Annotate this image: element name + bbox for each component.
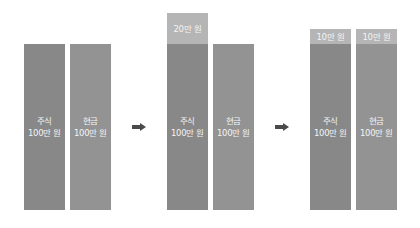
cash-label: 현금: [83, 115, 98, 127]
stock-bar-gain: 20만 원 주식 100만 원: [167, 13, 208, 210]
cash-segment: 현금 100만 원: [356, 44, 397, 210]
stock-label: 주식: [323, 115, 338, 127]
cash-label: 현금: [369, 115, 384, 127]
stock-amount: 100만 원: [171, 127, 204, 139]
cash-bar-rebalanced: 10만 원 현금 100만 원: [356, 29, 397, 210]
cash-amount: 100만 원: [217, 127, 250, 139]
gain-segment: 20만 원: [167, 13, 208, 44]
stock-bar-initial: 주식 100만 원: [24, 44, 65, 210]
rebalanced-segment: 10만 원: [356, 29, 397, 44]
cash-segment: 현금 100만 원: [70, 44, 111, 210]
stock-amount: 100만 원: [28, 127, 61, 139]
stock-segment: 주식 100만 원: [310, 44, 351, 210]
cash-bar-gain: 현금 100만 원: [213, 44, 254, 210]
rebalanced-segment: 10만 원: [310, 29, 351, 44]
stock-label: 주식: [180, 115, 195, 127]
right-arrow-icon: [132, 123, 146, 131]
stock-label: 주식: [37, 115, 52, 127]
stock-segment: 주식 100만 원: [24, 44, 65, 210]
cash-amount: 100만 원: [360, 127, 393, 139]
cash-label: 현금: [226, 115, 241, 127]
cash-segment: 현금 100만 원: [213, 44, 254, 210]
cash-amount: 100만 원: [74, 127, 107, 139]
right-arrow-icon: [275, 123, 289, 131]
stock-bar-rebalanced: 10만 원 주식 100만 원: [310, 29, 351, 210]
stock-segment: 주식 100만 원: [167, 44, 208, 210]
cash-bar-initial: 현금 100만 원: [70, 44, 111, 210]
stock-amount: 100만 원: [314, 127, 347, 139]
